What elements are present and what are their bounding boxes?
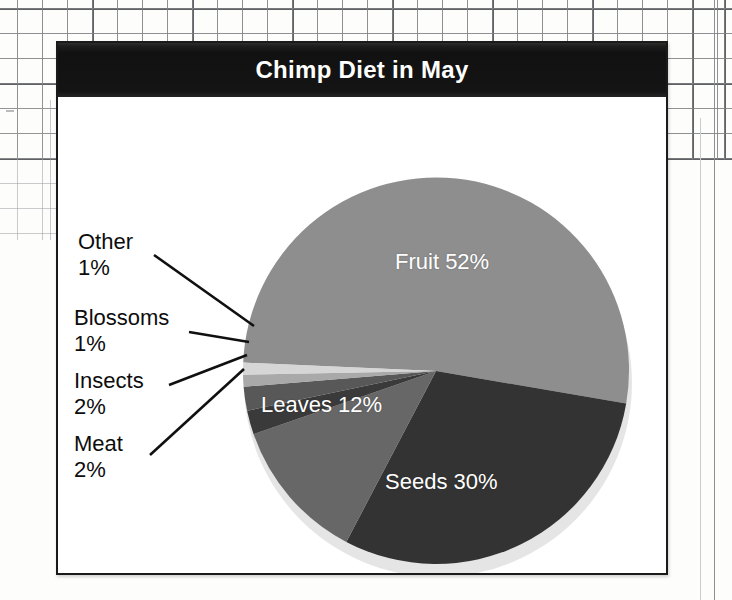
leader-line-blossoms bbox=[189, 332, 249, 342]
chart-panel: Chimp Diet in May bbox=[56, 41, 668, 575]
graph-paper-grid-left-margin bbox=[0, 100, 58, 240]
slice-label-fruit-pct: 52% bbox=[445, 249, 489, 274]
callout-meat-pct: 2% bbox=[74, 457, 123, 483]
slice-label-seeds-name: Seeds bbox=[385, 469, 447, 494]
callout-other-name: Other bbox=[78, 229, 133, 254]
callout-blossoms: Blossoms 1% bbox=[74, 305, 169, 357]
callout-insects-pct: 2% bbox=[74, 394, 144, 420]
callout-other: Other 1% bbox=[78, 229, 133, 281]
slice-label-fruit-name: Fruit bbox=[395, 249, 439, 274]
page-stray-mark bbox=[6, 110, 14, 112]
slice-label-leaves-name: Leaves bbox=[261, 392, 332, 417]
callout-insects-name: Insects bbox=[74, 368, 144, 393]
slice-label-fruit: Fruit 52% bbox=[395, 249, 489, 275]
slice-label-leaves: Leaves 12% bbox=[261, 392, 382, 418]
page-rule-line-inner bbox=[700, 118, 701, 600]
page-title: Chimp Diet in May bbox=[255, 56, 468, 84]
page-rule-line-right bbox=[714, 0, 715, 600]
slice-label-seeds-pct: 30% bbox=[454, 469, 498, 494]
scanned-page: Chimp Diet in May bbox=[0, 0, 732, 600]
callout-meat: Meat 2% bbox=[74, 431, 123, 483]
callout-other-pct: 1% bbox=[78, 255, 133, 281]
callout-blossoms-name: Blossoms bbox=[74, 305, 169, 330]
callout-meat-name: Meat bbox=[74, 431, 123, 456]
slice-label-seeds: Seeds 30% bbox=[385, 469, 498, 495]
chart-title-bar: Chimp Diet in May bbox=[58, 43, 666, 97]
pie-chart-plot-area: Other 1% Blossoms 1% Insects 2% Meat 2% … bbox=[58, 97, 666, 573]
callout-blossoms-pct: 1% bbox=[74, 331, 169, 357]
leader-line-insects bbox=[169, 355, 247, 385]
slice-label-leaves-pct: 12% bbox=[338, 392, 382, 417]
leader-line-meat bbox=[150, 369, 244, 455]
callout-insects: Insects 2% bbox=[74, 368, 144, 420]
